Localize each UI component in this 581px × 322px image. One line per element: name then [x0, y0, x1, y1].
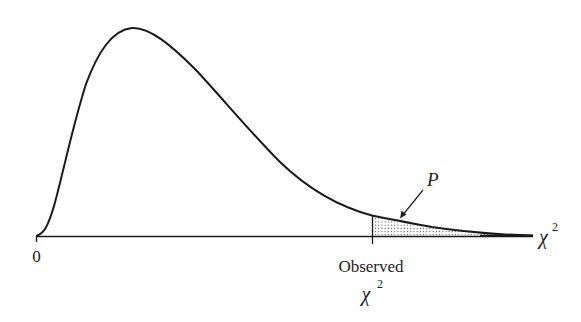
svg-text:2: 2: [377, 277, 383, 291]
x-axis-label: χ 2: [537, 220, 558, 249]
origin-label: 0: [32, 247, 41, 266]
svg-text:χ: χ: [537, 226, 549, 249]
tail-area-shading: [372, 210, 534, 237]
svg-text:2: 2: [552, 220, 558, 234]
chi-square-diagram: P 0 χ 2 Observed χ 2: [0, 0, 581, 322]
p-arrow: [400, 190, 423, 219]
svg-text:χ: χ: [360, 283, 372, 306]
observed-chi-square-label: χ 2: [360, 277, 383, 306]
tail-area-label: P: [426, 169, 439, 190]
density-curve: [36, 28, 533, 236]
observed-label: Observed: [338, 257, 404, 276]
